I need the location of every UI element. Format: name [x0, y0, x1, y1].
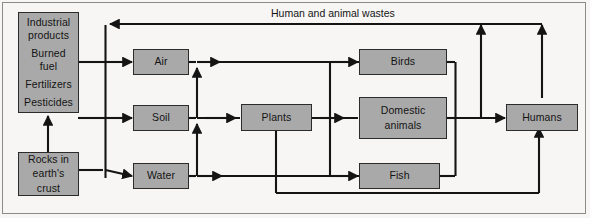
air-label: Air	[154, 55, 167, 68]
edge-bus-to-water	[106, 170, 133, 176]
birds-label: Birds	[391, 55, 415, 68]
plants-label: Plants	[262, 111, 292, 124]
domestic-animals-line-1: animals	[385, 119, 422, 132]
sources-line-0: Industrial	[27, 16, 71, 29]
sources-line-2: Burned	[31, 47, 65, 60]
sources-group-3: Pesticides	[24, 96, 73, 109]
soil-label: Soil	[152, 111, 170, 124]
sources-group-0: Industrial products	[27, 16, 71, 42]
sources-line-4: Fertilizers	[25, 78, 72, 91]
node-humans[interactable]: Humans	[506, 104, 578, 131]
sources-line-5: Pesticides	[24, 96, 73, 109]
node-rocks-in-earths-crust[interactable]: Rocks in earth's crust	[18, 152, 79, 196]
water-label: Water	[147, 169, 175, 182]
sources-line-3: fuel	[31, 60, 65, 73]
edge-label-wastes: Human and animal wastes	[271, 7, 395, 19]
domestic-animals-line-0: Domestic	[381, 104, 426, 117]
sources-group-1: Burned fuel	[31, 47, 65, 73]
rocks-line-0: Rocks in	[28, 153, 69, 166]
node-birds[interactable]: Birds	[359, 49, 447, 75]
node-industrial-sources[interactable]: Industrial products Burned fuel Fertiliz…	[18, 12, 79, 113]
node-domestic-animals[interactable]: Domestic animals	[359, 97, 447, 139]
fish-label: Fish	[389, 169, 409, 182]
node-air[interactable]: Air	[133, 49, 189, 75]
pollutant-pathway-diagram: Industrial products Burned fuel Fertiliz…	[0, 0, 590, 218]
node-soil[interactable]: Soil	[133, 105, 189, 131]
node-fish[interactable]: Fish	[359, 163, 440, 189]
rocks-line-2: crust	[37, 182, 60, 195]
node-plants[interactable]: Plants	[241, 104, 312, 131]
humans-label: Humans	[522, 111, 562, 124]
sources-group-2: Fertilizers	[25, 78, 72, 91]
sources-line-1: products	[27, 29, 71, 42]
rocks-line-1: earth's	[33, 167, 65, 180]
node-water[interactable]: Water	[133, 163, 189, 189]
